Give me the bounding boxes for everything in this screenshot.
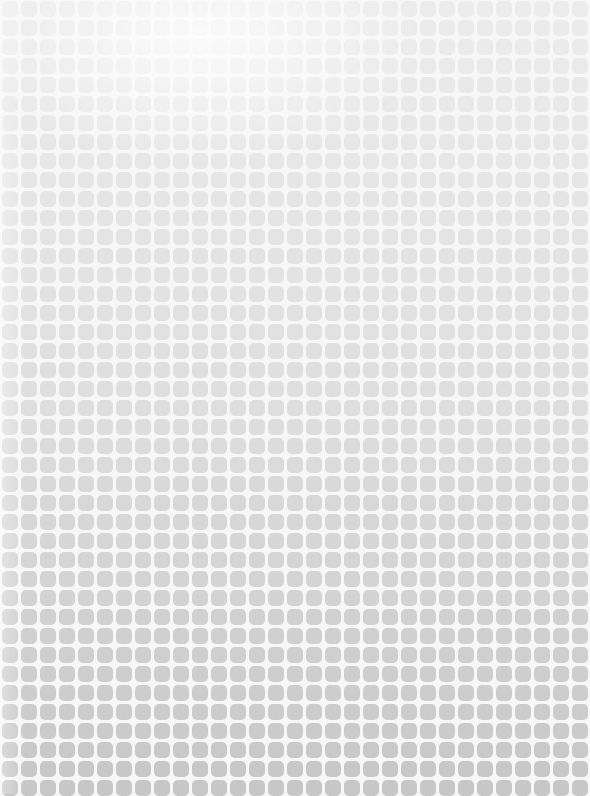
tile bbox=[173, 248, 189, 264]
tile bbox=[325, 761, 341, 777]
tile bbox=[21, 495, 37, 511]
tile bbox=[572, 780, 588, 796]
tile bbox=[135, 362, 151, 378]
tile bbox=[173, 400, 189, 416]
tile bbox=[154, 742, 170, 758]
tile bbox=[211, 229, 227, 245]
tile bbox=[59, 229, 75, 245]
tile bbox=[40, 780, 56, 796]
tile bbox=[116, 1, 132, 17]
tile bbox=[116, 590, 132, 606]
tile bbox=[515, 476, 531, 492]
tile bbox=[496, 685, 512, 701]
tile bbox=[268, 362, 284, 378]
tile bbox=[401, 191, 417, 207]
tile bbox=[78, 77, 94, 93]
tile bbox=[420, 723, 436, 739]
tile bbox=[439, 381, 455, 397]
tile bbox=[59, 400, 75, 416]
tile bbox=[420, 571, 436, 587]
tile bbox=[135, 400, 151, 416]
tile bbox=[287, 533, 303, 549]
tile bbox=[21, 780, 37, 796]
tile bbox=[154, 590, 170, 606]
tile bbox=[496, 324, 512, 340]
tile bbox=[401, 400, 417, 416]
tile bbox=[325, 438, 341, 454]
tile bbox=[477, 514, 493, 530]
tile bbox=[21, 571, 37, 587]
tile bbox=[116, 476, 132, 492]
tile bbox=[287, 666, 303, 682]
tile bbox=[515, 742, 531, 758]
tile bbox=[363, 248, 379, 264]
tile bbox=[344, 533, 360, 549]
tile bbox=[211, 495, 227, 511]
tile bbox=[230, 495, 246, 511]
tile bbox=[287, 761, 303, 777]
tile bbox=[192, 666, 208, 682]
tile bbox=[325, 666, 341, 682]
tile bbox=[363, 286, 379, 302]
tile bbox=[78, 362, 94, 378]
tile bbox=[439, 305, 455, 321]
tile bbox=[382, 267, 398, 283]
tile bbox=[116, 96, 132, 112]
tile bbox=[192, 39, 208, 55]
tile bbox=[496, 533, 512, 549]
tile bbox=[344, 229, 360, 245]
tile bbox=[534, 590, 550, 606]
tile bbox=[553, 666, 569, 682]
tile bbox=[287, 609, 303, 625]
tile bbox=[21, 704, 37, 720]
tile bbox=[78, 305, 94, 321]
tile bbox=[135, 20, 151, 36]
tile bbox=[59, 666, 75, 682]
tile bbox=[268, 609, 284, 625]
tile bbox=[553, 514, 569, 530]
tile bbox=[116, 647, 132, 663]
tile bbox=[249, 552, 265, 568]
tile bbox=[553, 229, 569, 245]
tile bbox=[268, 704, 284, 720]
tile bbox=[325, 229, 341, 245]
tile bbox=[78, 324, 94, 340]
tile bbox=[287, 1, 303, 17]
tile bbox=[21, 39, 37, 55]
tile bbox=[572, 723, 588, 739]
tile bbox=[287, 248, 303, 264]
tile bbox=[420, 96, 436, 112]
tile bbox=[249, 571, 265, 587]
tile bbox=[458, 761, 474, 777]
tile bbox=[534, 305, 550, 321]
tile bbox=[78, 172, 94, 188]
tile bbox=[154, 628, 170, 644]
tile bbox=[306, 438, 322, 454]
tile bbox=[268, 248, 284, 264]
tile bbox=[458, 20, 474, 36]
tile bbox=[40, 115, 56, 131]
tile bbox=[477, 609, 493, 625]
tile bbox=[21, 267, 37, 283]
tile bbox=[325, 704, 341, 720]
tile bbox=[59, 324, 75, 340]
tile bbox=[249, 647, 265, 663]
tile bbox=[59, 704, 75, 720]
tile bbox=[382, 77, 398, 93]
tile bbox=[40, 514, 56, 530]
tile bbox=[477, 20, 493, 36]
tile bbox=[59, 742, 75, 758]
tile bbox=[572, 419, 588, 435]
tile bbox=[306, 286, 322, 302]
tile bbox=[287, 514, 303, 530]
tile bbox=[116, 761, 132, 777]
tile bbox=[439, 115, 455, 131]
tile bbox=[572, 666, 588, 682]
tile bbox=[553, 305, 569, 321]
tile bbox=[154, 115, 170, 131]
tile bbox=[287, 286, 303, 302]
tile bbox=[116, 324, 132, 340]
tile bbox=[496, 39, 512, 55]
tile bbox=[154, 324, 170, 340]
tile bbox=[382, 685, 398, 701]
